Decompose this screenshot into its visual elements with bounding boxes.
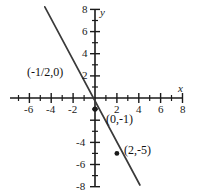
y-axis-name: y: [100, 7, 105, 18]
x-tick-label-4: 4: [136, 104, 142, 115]
annotation-point-neg-half-0: (-1/2,0): [27, 66, 63, 78]
data-point-marker-0-neg1: [92, 107, 97, 112]
data-point-marker-2-neg5: [115, 151, 120, 156]
y-tick-label--6: -6: [76, 159, 85, 170]
y-tick-label--8: -8: [76, 181, 85, 192]
x-tick-label--4: -4: [46, 104, 55, 115]
y-tick-label--4: -4: [76, 137, 85, 148]
annotation-point-0-neg1: (0,-1): [106, 113, 133, 125]
x-tick-label-6: 6: [158, 104, 164, 115]
x-tick-label-8: 8: [180, 104, 186, 115]
y-tick-label-2: 2: [82, 70, 88, 81]
annotation-point-2-neg5: (2,-5): [124, 144, 151, 156]
x-axis-name: x: [178, 83, 183, 94]
x-tick-label--6: -6: [24, 104, 33, 115]
coordinate-plane: [0, 0, 198, 194]
y-tick-label-8: 8: [82, 4, 88, 15]
x-tick-label--2: -2: [68, 104, 77, 115]
graph-figure: -6 -4 -2 2 4 6 8 8 6 4 2 -4 -6 -8 y x (-…: [0, 0, 198, 194]
y-tick-label-4: 4: [82, 48, 88, 59]
plotted-line: [45, 7, 140, 185]
y-tick-label-6: 6: [82, 26, 88, 37]
